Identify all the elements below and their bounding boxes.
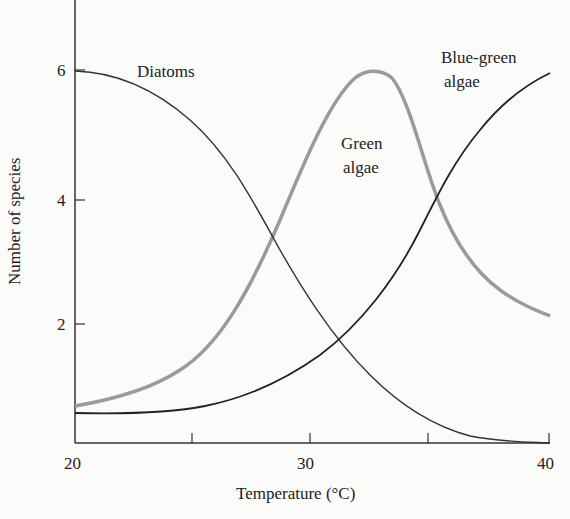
chart: 6 4 2 20 30 40 Temperature (°C) Number o… xyxy=(0,0,570,519)
y-tick-label-6: 6 xyxy=(57,61,66,80)
y-tick-label-2: 2 xyxy=(57,315,66,334)
label-green-algae-line2: algae xyxy=(343,158,379,177)
y-axis-label: Number of species xyxy=(5,158,24,285)
blue-green-algae-curve xyxy=(75,73,550,413)
label-diatoms: Diatoms xyxy=(137,62,195,81)
x-axis-label: Temperature (°C) xyxy=(236,484,355,503)
x-tick-label-20: 20 xyxy=(64,454,81,473)
x-tick-label-40: 40 xyxy=(537,454,554,473)
label-green-algae-line1: Green xyxy=(341,134,383,153)
label-blue-green-algae-line1: Blue-green xyxy=(441,48,517,67)
label-blue-green-algae-line2: algae xyxy=(444,72,480,91)
y-tick-label-4: 4 xyxy=(57,191,66,210)
green-algae-curve xyxy=(75,71,550,406)
x-tick-label-30: 30 xyxy=(297,454,314,473)
